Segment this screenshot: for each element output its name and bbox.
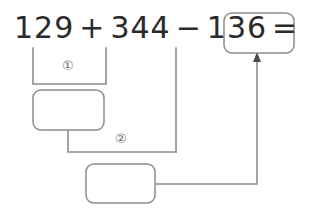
- box-sum1-value[interactable]: [33, 90, 104, 130]
- step-marker-2: ②: [115, 132, 127, 145]
- equation-term-2: 344: [110, 10, 170, 45]
- step-marker-1: ①: [62, 59, 74, 72]
- box-sum2-value[interactable]: [86, 164, 155, 203]
- line-to-answer: [155, 58, 257, 184]
- equation-operator-minus: −: [171, 10, 207, 45]
- box-answer-value[interactable]: [224, 13, 294, 53]
- equation-term-1: 129: [14, 10, 74, 45]
- equation-operator-plus: +: [74, 10, 110, 45]
- diagram-canvas: 129+344−136= ① ②: [0, 0, 310, 219]
